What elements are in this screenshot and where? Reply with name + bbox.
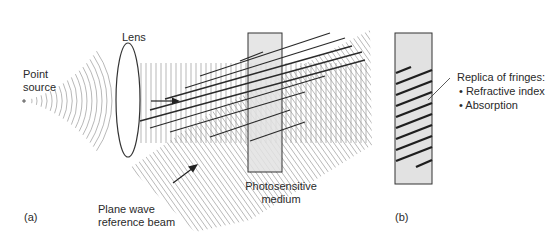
medium-label-line2: medium [231, 193, 331, 206]
replica-title: Replica of fringes: [457, 70, 545, 84]
spherical-wavefronts [32, 51, 112, 151]
point-source-label: Point source [23, 68, 56, 94]
replica-annotation: Replica of fringes: • Refractive index •… [457, 70, 545, 112]
replica-item-refractive-index: • Refractive index [457, 84, 545, 98]
lens-icon [116, 43, 140, 157]
replica-item-absorption: • Absorption [457, 98, 545, 112]
plane-wave-label-line2: reference beam [98, 216, 175, 229]
point-source-icon [22, 99, 26, 103]
plane-wave-label-line1: Plane wave [98, 203, 175, 216]
hologram-recording-diagram: Point source Lens Plane wave reference b… [0, 0, 558, 239]
lens-label: Lens [122, 31, 146, 44]
point-source-label-line2: source [23, 81, 56, 94]
point-source-label-line1: Point [23, 68, 56, 81]
medium-label: Photosensitive medium [231, 180, 331, 206]
medium-label-line1: Photosensitive [231, 180, 331, 193]
panel-b-label: (b) [395, 211, 408, 224]
plane-wave-label: Plane wave reference beam [98, 203, 175, 229]
panel-a-label: (a) [24, 211, 37, 224]
